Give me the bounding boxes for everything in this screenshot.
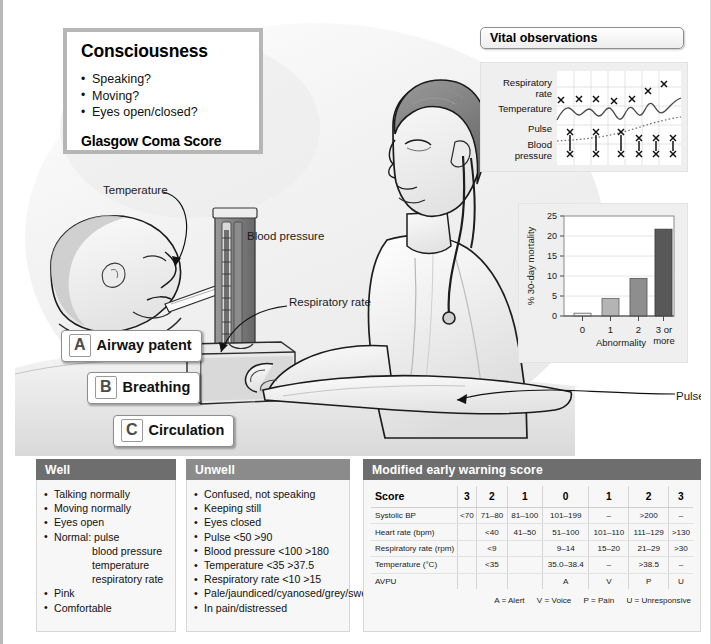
mews-header-row: Score 3 2 1 0 1 2 3 [371,486,693,508]
consciousness-item: Moving? [81,88,247,105]
mews-cell: 101–110 [589,524,629,540]
page-root: Temperature Blood pressure Respiratory r… [0,0,711,644]
mews-cell: 9–14 [543,540,589,556]
mews-cell: <40 [477,524,507,540]
mews-cell: 41–50 [507,524,543,540]
mews-cell: – [668,508,693,524]
list-item: blood pressure [37,544,175,558]
svg-text:10: 10 [547,271,557,281]
svg-text:1: 1 [608,324,613,335]
mews-cell: 35.0–38.4 [543,557,589,573]
callout-temperature: Temperature [103,184,168,196]
mews-cell [477,573,507,589]
list-item: Comfortable [37,601,175,615]
list-item: Normal: pulse [37,530,175,544]
panel-unwell-list: Confused, not speaking Keeping still Eye… [187,480,349,622]
mortality-bar-chart: 0 5 10 15 20 25 % 30-day mortality [518,203,688,363]
abc-badge-airway: A Airway patent [61,330,202,362]
abc-badge-breathing: B Breathing [87,372,200,404]
mews-cell [457,524,477,540]
panel-unwell-title: Unwell [186,459,350,480]
vital-label-temperature: Temperature [498,103,552,114]
mews-cell [457,540,477,556]
panel-well-body: Talking normally Moving normally Eyes op… [36,480,176,632]
vital-label-respiratory-rate: Respiratoryrate [503,77,552,99]
abc-letter: C [121,419,143,442]
abc-letter: B [95,376,117,399]
list-item: Pulse <50 >90 [187,530,349,544]
table-row: Heart rate (bpm) <40 41–50 51–100 101–11… [371,524,693,540]
panel-mews: Modified early warning score Score 3 2 1… [363,459,701,632]
svg-text:% 30-day mortality: % 30-day mortality [525,226,536,305]
panel-well: Well Talking normally Moving normally Ey… [36,459,176,632]
consciousness-item: Eyes open/closed? [81,104,247,121]
mews-cell: >200 [629,508,668,524]
abc-label: Breathing [123,379,191,395]
svg-text:3 or: 3 or [656,324,672,335]
mews-footnote-pain: P = Pain [584,596,615,605]
svg-text:5: 5 [552,291,557,301]
list-item: Talking normally [37,487,175,501]
mews-col-header: 1 [507,486,543,508]
mews-cell [507,573,543,589]
list-item: Temperature <35 >37.5 [187,558,349,572]
list-item: Pale/jaundiced/cyanosed/grey/sweaty [187,586,349,600]
list-item: Respiratory rate <10 >15 [187,572,349,586]
list-item: temperature [37,558,175,572]
mews-col-header: Score [371,486,457,508]
mews-cell: <70 [457,508,477,524]
mews-cell [457,573,477,589]
mews-cell: >30 [668,540,693,556]
list-item: Blood pressure <100 >180 [187,544,349,558]
svg-text:0: 0 [552,311,557,321]
vital-observations-chart: Respiratoryrate Temperature Pulse Bloodp… [480,62,688,172]
svg-text:Abnormality: Abnormality [596,337,646,348]
mews-cell: >130 [668,524,693,540]
mews-cell: A [543,573,589,589]
mews-cell: 51–100 [543,524,589,540]
vital-label-pulse: Pulse [528,123,552,134]
mews-cell [507,557,543,573]
mews-col-header: 3 [457,486,477,508]
mews-cell: <35 [477,557,507,573]
abc-label: Airway patent [97,337,192,353]
mews-cell: – [668,557,693,573]
callout-pulse: Pulse [676,390,701,402]
consciousness-item: Speaking? [81,71,247,88]
mews-col-header: 0 [543,486,589,508]
svg-text:25: 25 [547,211,557,221]
list-item: Eyes open [37,515,175,529]
list-item: respiratory rate [37,572,175,586]
mews-cell: 111–129 [629,524,668,540]
list-item: Keeping still [187,501,349,515]
mews-cell [457,557,477,573]
mews-footnote-voice: V = Voice [537,596,571,605]
panel-unwell-body: Confused, not speaking Keeping still Eye… [186,480,350,632]
mews-row-label: Respiratory rate (rpm) [371,540,457,556]
mews-footnote: A = Alert V = Voice P = Pain U = Unrespo… [371,596,693,605]
mews-row-label: Systolic BP [371,508,457,524]
mews-row-label: Temperature (°C) [371,557,457,573]
mews-table: Score 3 2 1 0 1 2 3 Systolic BP <70 71–8 [371,486,693,589]
consciousness-title: Consciousness [81,41,247,62]
panel-unwell: Unwell Confused, not speaking Keeping st… [186,459,350,632]
list-item: Pink [37,586,175,600]
mews-cell: – [589,557,629,573]
mews-table-head: Score 3 2 1 0 1 2 3 [371,486,693,508]
mews-cell [507,540,543,556]
mews-table-body: Systolic BP <70 71–80 81–100 101–199 – >… [371,508,693,589]
list-item: Moving normally [37,501,175,515]
panel-mews-title: Modified early warning score [363,459,701,480]
table-row: AVPU A V P U [371,573,693,589]
table-row: Respiratory rate (rpm) <9 9–14 15–20 21–… [371,540,693,556]
callout-respiratory-rate: Respiratory rate [289,296,371,308]
mews-cell: 101–199 [543,508,589,524]
panel-mews-body: Score 3 2 1 0 1 2 3 Systolic BP <70 71–8 [363,480,701,632]
mews-cell: U [668,573,693,589]
vital-chart-row-labels: Respiratoryrate Temperature Pulse Bloodp… [481,63,555,171]
panel-well-title: Well [36,459,176,480]
mews-cell: 15–20 [589,540,629,556]
svg-text:20: 20 [547,231,557,241]
mews-cell: V [589,573,629,589]
mews-cell: >38.5 [629,557,668,573]
